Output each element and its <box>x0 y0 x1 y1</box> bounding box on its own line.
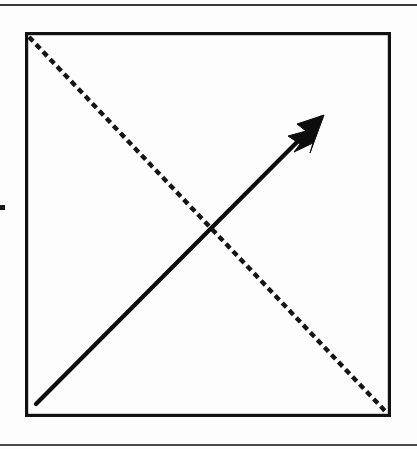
figure-canvas <box>25 32 391 417</box>
diagonal-arrow-diagram <box>25 32 391 417</box>
figure-page <box>0 0 417 449</box>
left-margin-tick <box>0 205 5 210</box>
solid-arrow-shaft <box>36 118 321 404</box>
top-page-rule <box>0 4 417 6</box>
bottom-page-rule <box>0 444 417 446</box>
